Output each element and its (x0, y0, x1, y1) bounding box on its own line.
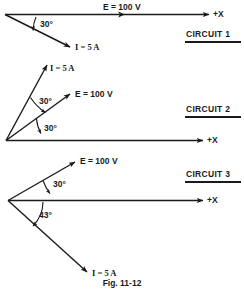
circuit-1-current-phasor (5, 15, 70, 48)
circuit-2-voltage-phasor (6, 94, 70, 141)
circuit-1-current-label: I = 5 A (75, 43, 99, 52)
circuit-3-title-underline (185, 181, 241, 183)
circuit-1-angle-arc (33, 17, 36, 31)
circuit-3-current-label: I = 5 A (92, 269, 116, 278)
circuit-1-angle-30: 30° (40, 20, 53, 29)
circuit-2-angle-lower-30: 30° (44, 124, 57, 133)
circuit-2-current-label: I = 5 A (50, 64, 74, 73)
circuit-1-axis-label: +X (213, 10, 224, 19)
circuit-3-voltage-label: E = 100 V (80, 157, 118, 166)
circuit-2-angle-arc-lower (37, 119, 42, 134)
circuit-2-angle-upper-30: 30° (39, 97, 52, 106)
circuit-2-title-underline (185, 116, 241, 118)
circuit-3-phasor-group (8, 162, 203, 272)
circuit-3-axis-label: +X (207, 196, 218, 205)
circuit-1-voltage-label: E = 100 V (103, 3, 141, 12)
circuit-3-angle-30: 30° (53, 180, 66, 189)
circuit-2-phasor-group (6, 65, 203, 141)
circuit-2-voltage-label: E = 100 V (75, 90, 113, 99)
circuit-3-title: CIRCUIT 3 (186, 170, 230, 179)
figure-caption: Fig. 11-12 (0, 279, 244, 288)
circuit-1-title: CIRCUIT 1 (186, 30, 230, 39)
circuit-3-angle-arc-upper (43, 181, 50, 194)
circuit-2-axis-label: +X (207, 136, 218, 145)
circuit-3-angle-43: 43° (39, 211, 52, 220)
circuit-2-title: CIRCUIT 2 (186, 105, 230, 114)
circuit-1-phasor-group (5, 12, 209, 47)
circuit-1-title-underline (185, 41, 241, 43)
